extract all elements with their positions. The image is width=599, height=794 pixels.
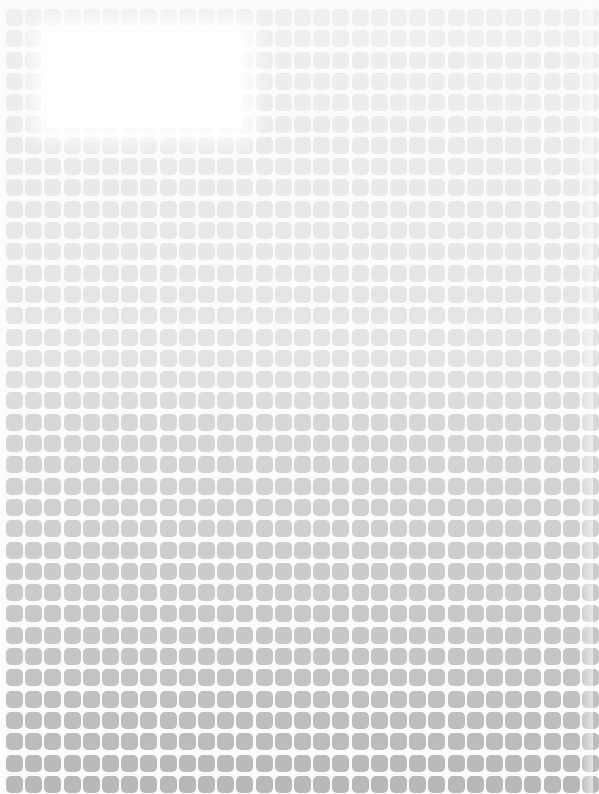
grid-tile — [352, 691, 369, 708]
grid-tile — [409, 9, 426, 26]
grid-tile — [25, 478, 42, 495]
grid-tile — [371, 243, 388, 260]
grid-tile — [524, 733, 541, 750]
grid-tile — [313, 243, 330, 260]
grid-tile — [160, 648, 177, 665]
grid-tile — [275, 584, 292, 601]
grid-tile — [505, 755, 522, 772]
grid-tile — [352, 712, 369, 729]
grid-tile — [505, 30, 522, 47]
grid-tile — [428, 9, 445, 26]
grid-tile — [275, 520, 292, 537]
grid-tile — [25, 691, 42, 708]
grid-tile — [524, 648, 541, 665]
grid-tile — [544, 94, 561, 111]
grid-tile — [121, 755, 138, 772]
grid-tile — [352, 499, 369, 516]
grid-tile — [563, 329, 580, 346]
grid-tile — [486, 755, 503, 772]
grid-tile — [140, 350, 157, 367]
grid-tile — [198, 563, 215, 580]
grid-tile — [83, 520, 100, 537]
grid-tile — [294, 712, 311, 729]
grid-tile — [563, 222, 580, 239]
grid-tile — [64, 392, 81, 409]
grid-tile — [217, 776, 234, 793]
grid-tile — [275, 350, 292, 367]
grid-tile — [236, 542, 253, 559]
grid-tile — [505, 563, 522, 580]
grid-tile — [6, 669, 23, 686]
grid-tile — [544, 350, 561, 367]
grid-tile — [486, 712, 503, 729]
grid-tile — [448, 222, 465, 239]
grid-tile — [64, 243, 81, 260]
grid-tile — [409, 307, 426, 324]
grid-tile — [505, 669, 522, 686]
grid-tile — [294, 350, 311, 367]
grid-tile — [352, 243, 369, 260]
grid-tile — [121, 435, 138, 452]
grid-tile — [371, 435, 388, 452]
grid-tile — [332, 563, 349, 580]
grid-tile — [217, 371, 234, 388]
grid-tile — [64, 563, 81, 580]
grid-tile — [428, 627, 445, 644]
grid-tile — [236, 755, 253, 772]
grid-tile — [563, 435, 580, 452]
grid-tile — [390, 733, 407, 750]
grid-tile — [313, 776, 330, 793]
grid-tile — [275, 286, 292, 303]
grid-tile — [294, 73, 311, 90]
grid-tile — [64, 307, 81, 324]
grid-tile — [428, 712, 445, 729]
grid-tile — [486, 30, 503, 47]
grid-tile — [505, 329, 522, 346]
grid-tile — [25, 73, 42, 90]
grid-tile — [217, 563, 234, 580]
grid-tile — [236, 669, 253, 686]
grid-tile — [294, 116, 311, 133]
grid-tile — [44, 435, 61, 452]
grid-tile — [179, 605, 196, 622]
grid-tile — [64, 414, 81, 431]
grid-tile — [505, 265, 522, 282]
grid-tile — [524, 350, 541, 367]
grid-tile — [563, 584, 580, 601]
grid-tile — [25, 158, 42, 175]
grid-tile — [524, 222, 541, 239]
grid-tile — [275, 30, 292, 47]
grid-tile — [467, 201, 484, 218]
grid-tile — [409, 648, 426, 665]
grid-tile — [352, 116, 369, 133]
grid-tile — [409, 520, 426, 537]
grid-tile — [294, 392, 311, 409]
grid-tile — [505, 201, 522, 218]
grid-tile — [371, 158, 388, 175]
grid-tile — [217, 499, 234, 516]
grid-tile — [102, 712, 119, 729]
grid-tile — [486, 73, 503, 90]
grid-tile — [256, 307, 273, 324]
grid-tile — [505, 520, 522, 537]
grid-tile — [294, 627, 311, 644]
grid-tile — [140, 456, 157, 473]
grid-tile — [448, 648, 465, 665]
grid-tile — [448, 243, 465, 260]
grid-tile — [236, 137, 253, 154]
grid-tile — [467, 30, 484, 47]
grid-tile — [217, 584, 234, 601]
grid-tile — [448, 520, 465, 537]
grid-tile — [448, 137, 465, 154]
grid-tile — [563, 755, 580, 772]
grid-tile — [409, 755, 426, 772]
left-edge-fade — [0, 0, 6, 794]
grid-tile — [390, 478, 407, 495]
grid-tile — [6, 307, 23, 324]
grid-tile — [505, 94, 522, 111]
grid-tile — [467, 286, 484, 303]
grid-tile — [102, 563, 119, 580]
grid-tile — [294, 222, 311, 239]
grid-tile — [44, 733, 61, 750]
grid-tile — [486, 137, 503, 154]
